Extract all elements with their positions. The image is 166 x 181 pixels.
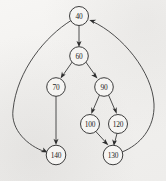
edge-60-to-90 bbox=[86, 62, 98, 78]
node-label: 70 bbox=[52, 83, 60, 92]
edge-40-to-60 bbox=[77, 26, 82, 47]
node-label: 90 bbox=[100, 83, 108, 92]
graph-node-120[interactable]: 120 bbox=[109, 115, 128, 134]
arrowhead-icon bbox=[91, 107, 95, 114]
graph-node-130[interactable]: 130 bbox=[103, 145, 123, 165]
graph-node-90[interactable]: 90 bbox=[95, 78, 114, 97]
arrowhead-icon bbox=[89, 20, 96, 24]
node-label: 130 bbox=[108, 151, 119, 160]
arrowhead-icon bbox=[113, 107, 117, 114]
node-label: 120 bbox=[113, 120, 124, 129]
edge-90-to-120 bbox=[109, 95, 117, 114]
edge-group bbox=[13, 20, 154, 153]
directed-graph: 40 60 70 90 100 120 bbox=[0, 0, 166, 181]
graph-node-60[interactable]: 60 bbox=[70, 47, 89, 66]
graph-node-140[interactable]: 140 bbox=[46, 145, 66, 165]
edge-70-to-140 bbox=[54, 96, 59, 145]
graph-node-40[interactable]: 40 bbox=[70, 7, 89, 26]
node-label: 100 bbox=[85, 120, 96, 129]
arrowhead-icon bbox=[91, 72, 97, 78]
edge-60-to-70 bbox=[61, 62, 72, 78]
graph-node-100[interactable]: 100 bbox=[81, 115, 100, 134]
edge-90-to-100 bbox=[91, 95, 99, 114]
node-label: 60 bbox=[75, 52, 83, 61]
edge-100-to-130 bbox=[96, 132, 109, 146]
diagram-canvas: 40 60 70 90 100 120 bbox=[0, 0, 166, 181]
node-label: 40 bbox=[75, 12, 83, 21]
arrowhead-icon bbox=[102, 139, 109, 145]
edge-120-to-130 bbox=[112, 133, 117, 146]
node-label: 140 bbox=[51, 151, 62, 160]
graph-node-70[interactable]: 70 bbox=[47, 78, 66, 97]
